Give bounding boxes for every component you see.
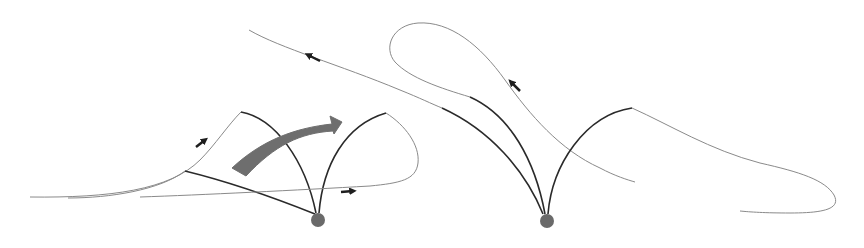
- right-trajectory-long: [249, 30, 442, 108]
- diagram-canvas: [0, 0, 864, 248]
- left-panel: [30, 112, 418, 227]
- right-filament-middle: [470, 97, 545, 214]
- arrow-up-right-icon: [196, 140, 205, 147]
- left-trajectory-inner: [68, 171, 185, 198]
- arrow-up-left-top-icon: [308, 55, 320, 61]
- right-pivot-dot: [540, 214, 554, 228]
- left-trajectory-outer: [30, 112, 241, 197]
- diagram-svg: [0, 0, 864, 248]
- left-loop-trajectory: [140, 113, 418, 197]
- right-filament-right-arc: [548, 108, 632, 214]
- right-filament-left: [442, 108, 543, 214]
- left-pivot-dot: [311, 213, 325, 227]
- right-trajectory-tail: [632, 108, 836, 213]
- right-loop-trajectory: [390, 23, 635, 182]
- arrow-right-icon: [341, 191, 353, 192]
